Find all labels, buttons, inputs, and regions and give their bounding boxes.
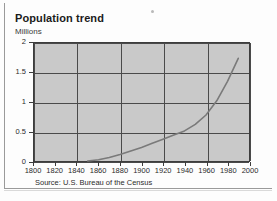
page-frame-bottom-rule-secondary <box>4 190 272 191</box>
y-axis-tick-label: 1.5 <box>0 67 26 76</box>
y-axis-unit-label: Millions <box>15 27 42 36</box>
page-frame-bottom-rule <box>4 188 272 189</box>
x-axis-tick-mark <box>163 162 164 166</box>
x-axis-tick-mark <box>185 162 186 166</box>
x-axis-tick-mark <box>207 162 208 166</box>
population-trend-figure: Population trend Millions 00.511.52 1800… <box>0 0 277 201</box>
x-axis-tick-mark <box>142 162 143 166</box>
plot-area <box>33 42 250 162</box>
x-axis-tick-mark <box>55 162 56 166</box>
y-axis-tick-label: 1 <box>0 97 26 106</box>
x-axis-tick-mark <box>76 162 77 166</box>
population-line-series <box>34 43 249 161</box>
y-axis-tick-mark <box>29 42 33 43</box>
y-axis-tick-label: 0.5 <box>0 127 26 136</box>
x-axis-tick-mark <box>120 162 121 166</box>
x-axis-tick-mark <box>33 162 34 166</box>
y-axis-tick-mark <box>29 72 33 73</box>
x-axis-tick-mark <box>250 162 251 166</box>
page-speck-icon <box>151 10 154 13</box>
chart-title: Population trend <box>15 12 104 24</box>
y-axis-tick-label: 2 <box>0 37 26 46</box>
x-axis-tick-mark <box>98 162 99 166</box>
x-axis-tick-mark <box>228 162 229 166</box>
x-axis-tick-label: 2000 <box>235 166 265 175</box>
gridline-vertical <box>250 43 251 161</box>
y-axis-tick-mark <box>29 102 33 103</box>
y-axis-tick-mark <box>29 132 33 133</box>
chart-source-note: Source: U.S. Bureau of the Census <box>35 178 152 187</box>
y-axis-tick-label: 0 <box>0 157 26 166</box>
